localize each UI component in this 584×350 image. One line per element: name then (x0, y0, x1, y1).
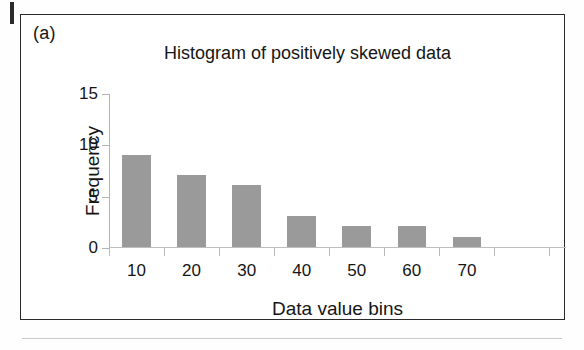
figure-frame: (a) Histogram of positively skewed data … (20, 14, 565, 320)
x-tick-label: 60 (402, 261, 421, 281)
x-tick-label: 70 (457, 261, 476, 281)
plot-area: 051015 10203040506070 (109, 94, 554, 248)
y-tick-label: 15 (79, 84, 98, 104)
y-tick (102, 197, 109, 198)
x-tick-label: 40 (292, 261, 311, 281)
histogram-bar (232, 185, 261, 247)
histogram-bar (453, 237, 482, 247)
chart-title: Histogram of positively skewed data (21, 43, 564, 64)
x-tick (274, 248, 275, 256)
y-tick-label: 5 (89, 187, 98, 207)
y-tick-label: 0 (89, 238, 98, 258)
y-tick (102, 94, 109, 95)
y-tick-label: 10 (79, 135, 98, 155)
x-tick-label: 30 (237, 261, 256, 281)
histogram-bar (287, 216, 316, 247)
x-tick (109, 248, 110, 256)
y-tick (102, 248, 109, 249)
x-tick-label: 50 (347, 261, 366, 281)
histogram-bar (342, 226, 371, 247)
x-tick (164, 248, 165, 256)
page-rule (22, 338, 562, 339)
x-tick (384, 248, 385, 256)
x-tick-label: 10 (127, 261, 146, 281)
x-tick (439, 248, 440, 256)
figure-page: (a) Histogram of positively skewed data … (0, 0, 584, 350)
y-tick (102, 145, 109, 146)
x-tick (329, 248, 330, 256)
x-tick (549, 248, 550, 256)
x-axis-title: Data value bins (109, 298, 566, 320)
x-tick (219, 248, 220, 256)
page-margin-mark (10, 2, 14, 24)
histogram-bar (398, 226, 427, 247)
x-tick (494, 248, 495, 256)
histogram-bar (122, 155, 151, 247)
x-tick-label: 20 (182, 261, 201, 281)
histogram-bar (177, 175, 206, 247)
y-axis-line (109, 94, 110, 248)
panel-label: (a) (33, 23, 56, 44)
